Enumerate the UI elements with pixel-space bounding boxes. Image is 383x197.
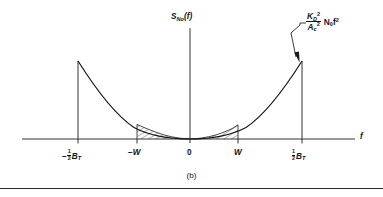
annotation-fraction: KD2 Ac2: [306, 12, 321, 32]
annotation-leader: [291, 23, 306, 63]
y-axis-subscript: No: [176, 16, 183, 22]
y-axis-label: SNo(f): [171, 13, 192, 21]
y-axis-argument: (f): [184, 12, 192, 21]
x-tick-label-positive-half-bt: 12BT: [291, 149, 305, 161]
x-tick-label-negative-w: −W: [128, 149, 141, 157]
figure-caption: (b): [0, 172, 383, 180]
annotation-denominator: Ac2: [306, 21, 320, 31]
horizontal-divider: [0, 188, 383, 189]
x-axis-label: f: [360, 133, 363, 141]
x-tick-label-origin: 0: [187, 149, 192, 157]
x-tick-label-positive-w: W: [234, 149, 242, 157]
annotation-trailing-term: N0f2: [324, 17, 339, 27]
peak-value-annotation: KD2 Ac2 N0f2: [306, 12, 339, 32]
x-tick-label-negative-half-bt: −12BT: [62, 149, 81, 161]
annotation-numerator: KD2: [306, 12, 321, 21]
figure-container: SNo(f) f KD2 Ac2 N0f2 −12BT −W 0 W 12BT …: [0, 0, 383, 197]
